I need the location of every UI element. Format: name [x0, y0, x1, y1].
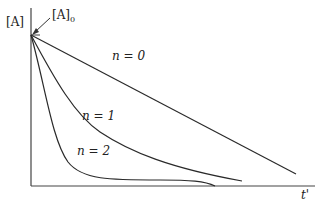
x-axis-label: t'	[301, 189, 309, 201]
chart-canvas	[0, 0, 325, 204]
series-n0	[31, 35, 296, 174]
series-label-n1: n = 1	[82, 110, 115, 122]
series-label-n0: n = 0	[112, 50, 145, 62]
series-label-n2: n = 2	[77, 145, 110, 157]
y-axis-label: [A]	[6, 16, 24, 28]
initial-value-label: [A]0	[52, 9, 75, 24]
